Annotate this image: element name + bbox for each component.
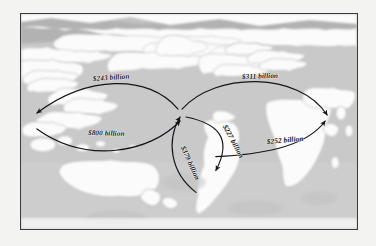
flow-arrow-311 <box>182 82 327 115</box>
flow-label-800: $800 billion <box>88 130 125 138</box>
flow-label-311: $311 billion <box>242 73 278 81</box>
flow-arrow-243 <box>37 84 178 114</box>
trade-flow-arrows <box>21 14 357 229</box>
map-figure-frame: $243 billion $800 billion $311 billion $… <box>20 13 358 230</box>
page-background: $243 billion $800 billion $311 billion $… <box>0 0 376 246</box>
